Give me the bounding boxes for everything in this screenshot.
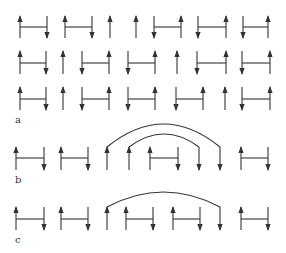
arrowhead	[79, 104, 84, 111]
spin-down-arrow-icon	[175, 147, 180, 171]
spin-up-arrow-icon	[200, 86, 205, 110]
arrowhead	[104, 206, 109, 213]
arrowhead	[170, 206, 175, 213]
arrowhead	[238, 206, 243, 213]
spin-down-arrow-icon	[41, 147, 46, 171]
spin-up-arrow-icon	[104, 146, 109, 170]
spin-up-arrow-icon	[223, 50, 228, 74]
arrowhead	[62, 15, 67, 22]
arrowhead	[13, 206, 18, 213]
spin-row	[13, 124, 270, 171]
arrowhead	[197, 224, 202, 231]
arrowhead	[195, 32, 200, 39]
spin-up-arrow-icon	[60, 50, 65, 74]
arrowhead	[238, 146, 243, 153]
spin-row	[17, 15, 270, 39]
spin-row	[17, 50, 272, 75]
arrowhead	[17, 15, 22, 22]
spin-up-arrow-icon	[126, 146, 131, 170]
arrowhead	[13, 146, 18, 153]
arrowhead	[106, 50, 111, 57]
panel-a: a	[15, 15, 273, 125]
panel-label: a	[15, 114, 21, 125]
arrowhead	[265, 164, 270, 171]
spin-up-arrow-icon	[17, 86, 22, 110]
arrowhead	[17, 50, 22, 57]
arrowhead	[125, 68, 130, 75]
arrowhead	[17, 86, 22, 93]
spin-up-arrow-icon	[170, 206, 175, 230]
arrowhead	[106, 86, 111, 93]
arrowhead	[85, 164, 90, 171]
arrowhead	[79, 68, 84, 75]
arrowhead	[239, 104, 244, 111]
spin-down-arrow-icon	[265, 147, 270, 171]
arrowhead	[89, 32, 94, 39]
arrowhead	[265, 15, 270, 22]
arrowhead	[133, 15, 138, 22]
arrowhead	[239, 68, 244, 75]
panel-label: b	[15, 174, 21, 185]
arrowhead	[85, 224, 90, 231]
arrowhead	[267, 86, 272, 93]
arrowhead	[60, 86, 65, 93]
arrowhead	[125, 104, 130, 111]
panel-b: b	[13, 124, 270, 185]
spin-up-arrow-icon	[152, 50, 157, 74]
spin-up-arrow-icon	[267, 50, 272, 74]
pairing-arc	[107, 124, 220, 147]
arrowhead	[223, 50, 228, 57]
panel-label: c	[15, 234, 21, 245]
arrowhead	[150, 224, 155, 231]
arrowhead	[265, 224, 270, 231]
arrowhead	[194, 68, 199, 75]
spin-row	[17, 86, 272, 111]
spin-up-arrow-icon	[222, 86, 227, 110]
arrowhead	[217, 224, 222, 231]
arrowhead	[267, 50, 272, 57]
arrowhead	[178, 15, 183, 22]
arrowhead	[173, 104, 178, 111]
arrowhead	[58, 206, 63, 213]
arrowhead	[174, 50, 179, 57]
spin-up-arrow-icon	[174, 50, 179, 74]
spin-up-arrow-icon	[152, 86, 157, 110]
spin-row	[13, 192, 270, 231]
spin-down-arrow-icon	[217, 147, 222, 171]
arrowhead	[196, 164, 201, 171]
spin-up-arrow-icon	[238, 206, 243, 230]
spin-down-arrow-icon	[196, 147, 201, 171]
arrowhead	[217, 164, 222, 171]
spin-up-arrow-icon	[13, 206, 18, 230]
spin-up-arrow-icon	[133, 15, 138, 38]
arrowhead	[123, 206, 128, 213]
arrowhead	[240, 32, 245, 39]
pairing-arc	[129, 134, 199, 147]
arrowhead	[41, 164, 46, 171]
arrowhead	[222, 86, 227, 93]
arrowhead	[152, 50, 157, 57]
arrowhead	[126, 146, 131, 153]
arrowhead	[60, 50, 65, 57]
arrowhead	[44, 32, 49, 39]
arrowhead	[41, 224, 46, 231]
arrowhead	[152, 86, 157, 93]
arrowhead	[175, 164, 180, 171]
spin-up-arrow-icon	[267, 86, 272, 110]
arrowhead	[43, 68, 48, 75]
arrowhead	[58, 146, 63, 153]
spin-up-arrow-icon	[17, 50, 22, 74]
arrowhead	[107, 15, 112, 22]
diagram-drawing: abc	[13, 15, 272, 245]
arrowhead	[43, 104, 48, 111]
spin-up-arrow-icon	[107, 15, 112, 38]
arrowhead	[151, 32, 156, 39]
spin-up-arrow-icon	[60, 86, 65, 110]
arrowhead	[147, 146, 152, 153]
spin-up-arrow-icon	[106, 86, 111, 110]
spin-up-arrow-icon	[104, 206, 109, 230]
spin-up-arrow-icon	[106, 50, 111, 74]
spin-down-arrow-icon	[85, 147, 90, 171]
spin-up-arrow-icon	[123, 206, 128, 230]
arrowhead	[200, 86, 205, 93]
